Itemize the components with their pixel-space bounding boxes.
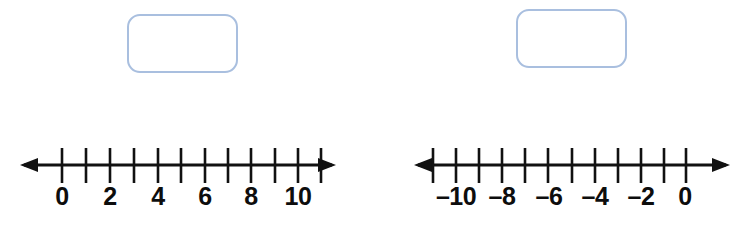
- left-number-line: 0 2 4 6 8 10: [0, 0, 380, 233]
- left-arrowhead-icon: [414, 158, 432, 172]
- left-arrowhead-icon: [20, 158, 38, 172]
- right-number-line-graphic: [405, 0, 747, 233]
- left-number-line-graphic: [0, 0, 380, 233]
- right-arrowhead-icon: [712, 158, 730, 172]
- right-number-line: –10 –8 –6 –4 –2 0: [405, 0, 747, 233]
